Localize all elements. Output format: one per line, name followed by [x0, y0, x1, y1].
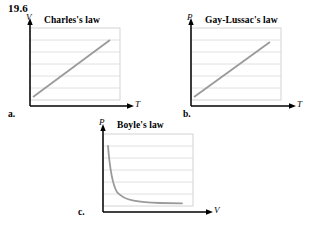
- x-axis-arrow-charles: [127, 103, 134, 108]
- panel-caption-a: a.: [8, 109, 15, 119]
- x-axis-label-charles: T: [135, 99, 140, 109]
- x-axis-arrow-boyle: [206, 209, 213, 214]
- y-axis-arrow-charles: [27, 18, 32, 25]
- panel-gay-lussac-law: P Gay-Lussac's law T: [181, 14, 312, 120]
- x-axis-arrow-gay-lussac: [289, 103, 296, 108]
- y-axis-arrow-boyle: [100, 124, 105, 131]
- panel-boyle-law: P Boyle's law V: [90, 117, 240, 225]
- panel-charles-law: V Charles's law T: [8, 14, 148, 120]
- panel-caption-c: c.: [78, 207, 85, 217]
- x-axis-label-gay-lussac: T: [297, 99, 302, 109]
- y-axis-arrow-gay-lussac: [188, 18, 193, 25]
- plot-gay-lussac-law: [181, 14, 312, 120]
- x-axis-label-boyle: V: [214, 205, 220, 215]
- plot-charles-law: [8, 14, 148, 120]
